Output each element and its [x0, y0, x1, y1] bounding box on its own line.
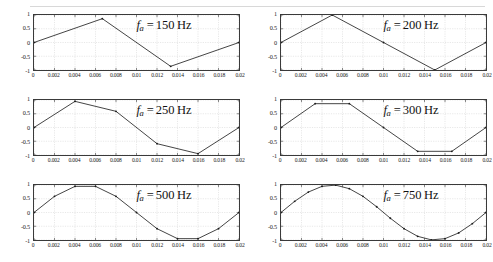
y-tick-label: 1 — [274, 96, 277, 102]
x-tick-label: 0.016 — [193, 243, 205, 249]
y-tick-label: 0.5 — [270, 25, 277, 31]
y-tick-label: 0 — [274, 124, 277, 130]
x-tick-label: 0.016 — [440, 158, 452, 164]
data-point-marker — [156, 228, 158, 230]
y-tick-label: -0.5 — [21, 224, 30, 230]
annotation-value: 300 — [403, 103, 422, 117]
x-tick-label: 0.008 — [357, 243, 369, 249]
y-tick-label: 0 — [27, 209, 30, 215]
x-tick-label: 0.006 — [89, 158, 101, 164]
data-point-marker — [348, 188, 350, 190]
x-tick-label: 0.016 — [193, 73, 205, 79]
panel-500hz: 10.50-0.5-100.0020.0040.0060.0080.010.01… — [33, 184, 240, 241]
x-tick-label: 0.002 — [48, 73, 60, 79]
annotation-value: 250 — [156, 103, 175, 117]
y-tick-label: 1 — [27, 11, 30, 17]
data-point-marker — [95, 185, 97, 187]
annotation-subscript: a — [386, 108, 390, 118]
y-tick-label: 0.5 — [270, 195, 277, 201]
panel-200hz: 10.50-0.5-100.0020.0040.0060.0080.010.01… — [280, 14, 487, 71]
x-tick-label: 0 — [279, 243, 282, 249]
data-point-marker — [136, 212, 138, 214]
x-tick-label: 0 — [279, 73, 282, 79]
x-tick-label: 0.018 — [213, 73, 225, 79]
x-tick-label: 0 — [32, 158, 35, 164]
x-axis-tick-labels: 00.0020.0040.0060.0080.010.0120.0140.016… — [33, 73, 240, 85]
annotation-equals: = — [394, 18, 401, 32]
data-point-marker — [451, 150, 453, 152]
x-tick-label: 0.002 — [295, 243, 307, 249]
x-tick-label: 0 — [32, 243, 35, 249]
sampling-frequency-annotation: fa=500Hz — [137, 189, 192, 203]
data-point-marker — [197, 238, 199, 240]
x-tick-label: 0.02 — [482, 243, 491, 249]
x-tick-label: 0.014 — [172, 158, 184, 164]
x-tick-label: 0.008 — [357, 73, 369, 79]
x-tick-label: 0.004 — [315, 158, 327, 164]
sampling-frequency-annotation: fa=750Hz — [384, 189, 439, 203]
y-tick-label: -1 — [272, 153, 277, 159]
x-tick-label: 0.01 — [379, 243, 388, 249]
annotation-equals: = — [147, 103, 154, 117]
x-tick-label: 0.02 — [235, 158, 244, 164]
x-axis-tick-labels: 00.0020.0040.0060.0080.010.0120.0140.016… — [280, 73, 487, 85]
x-tick-label: 0.018 — [460, 73, 472, 79]
x-tick-label: 0.002 — [295, 73, 307, 79]
x-tick-label: 0.014 — [172, 73, 184, 79]
data-point-marker — [156, 143, 158, 145]
panel-150hz: 10.50-0.5-100.0020.0040.0060.0080.010.01… — [33, 14, 240, 71]
panel-250hz: 10.50-0.5-100.0020.0040.0060.0080.010.01… — [33, 99, 240, 156]
x-tick-label: 0.014 — [172, 243, 184, 249]
figure-canvas: 10.50-0.5-100.0020.0040.0060.0080.010.01… — [0, 0, 493, 262]
y-tick-label: -1 — [272, 238, 277, 244]
data-point-marker — [383, 42, 385, 44]
data-point-marker — [458, 232, 460, 234]
y-axis-tick-labels: 10.50-0.5-1 — [8, 99, 32, 156]
x-tick-label: 0.006 — [336, 243, 348, 249]
x-tick-label: 0.01 — [379, 73, 388, 79]
x-tick-label: 0.018 — [213, 158, 225, 164]
data-point-marker — [430, 239, 432, 240]
sampling-frequency-annotation: fa=300Hz — [384, 104, 439, 118]
x-tick-label: 0.002 — [48, 243, 60, 249]
x-tick-label: 0.02 — [482, 158, 491, 164]
data-point-marker — [471, 223, 473, 225]
x-tick-label: 0.018 — [460, 158, 472, 164]
x-axis-tick-labels: 00.0020.0040.0060.0080.010.0120.0140.016… — [280, 158, 487, 170]
x-tick-label: 0.014 — [419, 158, 431, 164]
annotation-value: 500 — [156, 188, 175, 202]
x-tick-label: 0.02 — [235, 73, 244, 79]
x-tick-label: 0.02 — [482, 73, 491, 79]
y-tick-label: -0.5 — [268, 54, 277, 60]
x-tick-label: 0.012 — [151, 73, 163, 79]
annotation-subscript: a — [139, 193, 143, 203]
annotation-subscript: a — [139, 108, 143, 118]
annotation-subscript: a — [386, 23, 390, 33]
data-point-marker — [115, 110, 117, 112]
y-tick-label: 0 — [274, 39, 277, 45]
data-point-marker — [170, 65, 172, 67]
x-tick-label: 0.004 — [68, 73, 80, 79]
annotation-value: 150 — [156, 18, 175, 32]
x-tick-label: 0.008 — [110, 158, 122, 164]
x-tick-label: 0.004 — [315, 73, 327, 79]
y-tick-label: -1 — [25, 153, 30, 159]
x-tick-label: 0.002 — [48, 158, 60, 164]
x-axis-tick-labels: 00.0020.0040.0060.0080.010.0120.0140.016… — [280, 243, 487, 255]
data-point-marker — [417, 235, 419, 237]
annotation-subscript: a — [139, 23, 143, 33]
data-point-marker — [218, 228, 220, 230]
y-axis-tick-labels: 10.50-0.5-1 — [8, 14, 32, 71]
data-point-marker — [101, 18, 103, 20]
data-point-marker — [294, 200, 296, 202]
x-axis-tick-labels: 00.0020.0040.0060.0080.010.0120.0140.016… — [33, 158, 240, 170]
annotation-value: 200 — [403, 18, 422, 32]
y-axis-tick-labels: 10.50-0.5-1 — [255, 14, 279, 71]
x-tick-label: 0.004 — [315, 243, 327, 249]
data-point-marker — [348, 103, 350, 105]
data-point-marker — [362, 195, 364, 197]
x-tick-label: 0.008 — [110, 243, 122, 249]
x-tick-label: 0.012 — [398, 73, 410, 79]
y-tick-label: 1 — [274, 11, 277, 17]
x-axis-tick-labels: 00.0020.0040.0060.0080.010.0120.0140.016… — [33, 243, 240, 255]
